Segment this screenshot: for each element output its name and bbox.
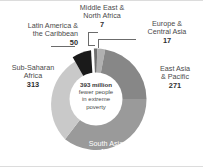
leader-line-europe-central-asia-v — [98, 39, 99, 48]
leader-line-middle-east-north-africa-v — [88, 32, 89, 45]
value-middle-east-north-africa: 7 — [70, 21, 134, 29]
leader-line-latin-america — [51, 46, 75, 47]
label-south-asia: South Asia 431 — [76, 140, 136, 157]
donut-hole — [70, 73, 123, 126]
label-east-asia-pacific: East Asia & Pacific 271 — [148, 65, 202, 90]
donut-svg — [41, 44, 151, 154]
label-latin-america: Latin America & the Caribbean 50 — [8, 22, 78, 47]
leader-line-middle-east-north-africa-h — [88, 32, 98, 33]
donut-chart: 393 million fewer people in extreme pove… — [0, 0, 203, 167]
label-middle-east-north-africa: Middle East & North Africa 7 — [70, 4, 134, 29]
value-east-asia-pacific: 271 — [148, 82, 202, 90]
label-sub-saharan-africa: Sub-Saharan Africa 313 — [2, 64, 64, 89]
value-south-asia: 431 — [76, 148, 136, 156]
value-sub-saharan-africa: 313 — [2, 81, 64, 89]
value-europe-central-asia: 17 — [136, 37, 198, 45]
leader-line-europe-central-asia-h — [98, 39, 136, 40]
donut-graphic — [41, 44, 151, 154]
leader-line-middle-east-north-africa-h2 — [88, 45, 95, 46]
label-europe-central-asia: Europe & Central Asia 17 — [136, 20, 198, 45]
